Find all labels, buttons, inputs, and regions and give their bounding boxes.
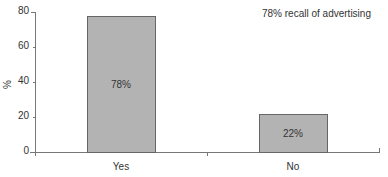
x-category-label: No [263,161,323,172]
y-axis-tick [33,47,36,48]
bar-value-label: 78% [91,79,151,90]
y-axis-tick [35,152,36,156]
y-tick-label: 20 [9,110,29,121]
y-tick-label: 0 [9,145,29,156]
x-axis-tick [379,148,380,153]
bar-chart: 80 60 40 20 0 % 78% 22% Yes No 78% recal… [0,0,388,177]
y-axis-label: % [2,80,13,89]
bar-value-label: 22% [263,128,323,139]
y-axis-tick [33,82,36,83]
y-tick-label: 60 [9,40,29,51]
x-axis-tick [207,152,208,156]
chart-annotation: 78% recall of advertising [262,8,371,19]
x-category-label: Yes [91,161,151,172]
y-axis-tick [31,12,36,13]
y-tick-label: 80 [9,5,29,16]
y-axis-tick [33,117,36,118]
